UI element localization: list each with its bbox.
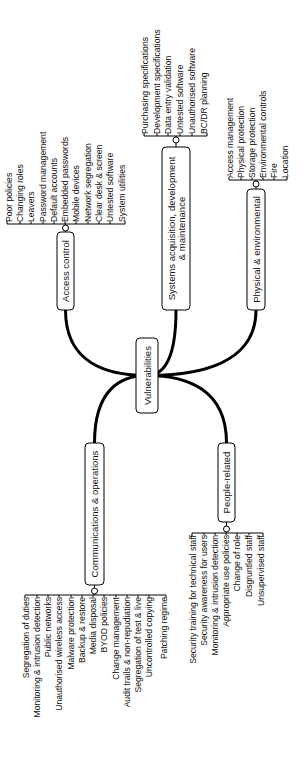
branch-systems-acquisition: Systems acquisition, development& mainte…	[140, 29, 209, 310]
edge-access-control	[66, 310, 148, 376]
leaf-label[interactable]: Malware protection	[66, 597, 76, 670]
leaf-label[interactable]: Purchasing specifications	[140, 37, 150, 134]
physical-environmental-collapse-toggle-icon[interactable]	[253, 181, 259, 187]
leaf-label[interactable]: Poor policies	[4, 173, 14, 222]
people-related-node-label: People-related	[221, 452, 232, 514]
leaf-label[interactable]: Change of role	[232, 535, 242, 592]
leaf-label[interactable]: Leavers	[26, 191, 36, 222]
leaf-label[interactable]: Embedded passwords	[60, 137, 70, 222]
leaf-label[interactable]: Password management	[38, 131, 48, 222]
physical-environmental-node-label: Physical & environmental	[251, 196, 262, 303]
leaf-label[interactable]: System utilities	[117, 165, 127, 222]
leaf-label[interactable]: BC/DR planning	[199, 72, 209, 134]
leaf-label[interactable]: Untested software	[105, 153, 115, 222]
leaf-label[interactable]: Media disposal	[88, 597, 98, 654]
people-related-collapse-toggle-icon[interactable]	[224, 526, 230, 532]
leaf-label[interactable]: Unauthorised wireless access	[54, 597, 64, 711]
leaf-label[interactable]: Fire	[269, 163, 279, 178]
branch-communications-operations: Communications & operationsSegregation o…	[21, 443, 169, 717]
leaf-label[interactable]: Patching regime	[159, 597, 169, 659]
leaf-label[interactable]: Mobile devices	[71, 165, 81, 222]
leaf-label[interactable]: Location	[280, 145, 290, 178]
leaf-label[interactable]: Storage protection	[247, 108, 257, 178]
communications-operations-node-label: Communications & operations	[89, 450, 100, 577]
center-node[interactable]: Vulnerabilities	[136, 338, 158, 413]
leaf-label[interactable]: Public networks	[43, 597, 53, 657]
edge-people-related	[147, 376, 227, 444]
leaf-label[interactable]: Security awareness for users	[199, 535, 209, 646]
mind-map-canvas: Access controlPoor policiesChanging role…	[0, 0, 304, 770]
leaf-label[interactable]: Monitoring & intrusion detection	[32, 597, 42, 718]
leaf-label[interactable]: Environmental controls	[258, 91, 268, 178]
leaf-label[interactable]: Disgruntled staff	[244, 534, 254, 597]
leaf-label[interactable]: Clear desk & screen	[94, 144, 104, 222]
leaf-label[interactable]: Segregation of test & live	[133, 597, 143, 693]
leaf-label[interactable]: BYOD policies	[99, 597, 109, 652]
leaf-label[interactable]: Network segregation	[83, 143, 93, 222]
leaf-label[interactable]: Default accounts	[49, 158, 59, 222]
access-control-collapse-toggle-icon[interactable]	[63, 225, 69, 231]
leaf-label[interactable]: Change management	[111, 596, 121, 679]
leaf-label[interactable]: Access management	[225, 97, 235, 178]
branch-access-control: Access controlPoor policiesChanging role…	[4, 131, 127, 310]
leaf-label[interactable]: Development specifications	[152, 29, 162, 134]
leaf-label[interactable]: Backup & restore	[77, 597, 87, 663]
systems-acquisition-node-label: & maintenance	[176, 197, 187, 260]
branch-physical-environmental: Physical & environmentalAccess managemen…	[225, 91, 290, 310]
leaf-label[interactable]: Monitoring & intrusion detection	[210, 535, 220, 656]
access-control-node-label: Access control	[60, 240, 71, 302]
leaf-label[interactable]: Security training for technical staff	[188, 534, 198, 663]
connector-edges	[66, 310, 257, 443]
systems-acquisition-collapse-toggle-icon[interactable]	[173, 137, 179, 143]
communications-operations-collapse-toggle-icon[interactable]	[92, 588, 98, 594]
center-node-label: Vulnerabilities	[142, 346, 153, 405]
leaf-label[interactable]: Uncontrolled copying	[144, 597, 154, 677]
leaf-label[interactable]: Appropriate use policies	[221, 535, 231, 627]
leaf-label[interactable]: Data entry validation	[163, 55, 173, 134]
leaf-label[interactable]: Physical protection	[236, 106, 246, 178]
leaf-label[interactable]: Unsupervised staff	[256, 534, 266, 606]
leaf-label[interactable]: Untested software	[175, 65, 185, 134]
leaf-label[interactable]: Audit trails & non-repudiation	[122, 597, 132, 708]
leaf-label[interactable]: Unauthorised software	[187, 48, 197, 134]
leaf-label[interactable]: Segregation of duties	[21, 597, 31, 678]
branch-people-related: People-relatedSecurity training for tech…	[188, 443, 266, 664]
leaf-label[interactable]: Changing roles	[15, 164, 25, 222]
